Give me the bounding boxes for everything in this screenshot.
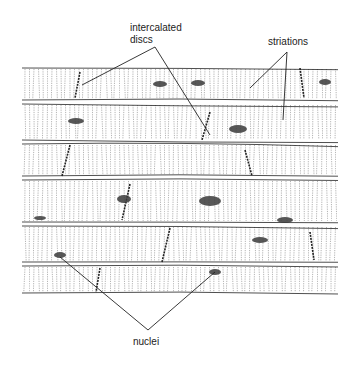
- striation: [262, 227, 263, 261]
- striation: [204, 267, 205, 292]
- striation: [232, 267, 233, 292]
- fiber-edge: [22, 99, 338, 101]
- nucleus: [199, 196, 221, 206]
- striation: [111, 105, 112, 139]
- striation: [334, 227, 335, 261]
- striation: [210, 69, 211, 99]
- nucleus: [34, 216, 46, 220]
- striation: [182, 267, 183, 292]
- striation: [100, 69, 101, 99]
- striation: [186, 227, 187, 261]
- striation: [228, 181, 229, 221]
- striation: [141, 267, 142, 292]
- leader-nuclei-2: [148, 272, 215, 330]
- striation: [268, 227, 269, 261]
- striation: [51, 69, 52, 99]
- striation: [322, 105, 323, 139]
- striation: [168, 105, 169, 139]
- striation: [141, 105, 142, 139]
- striation: [249, 227, 250, 261]
- label-intercalated-line2: discs: [130, 34, 182, 46]
- striation: [258, 105, 259, 139]
- striation: [282, 267, 283, 292]
- nucleus: [191, 80, 205, 86]
- striation: [177, 181, 178, 221]
- striation: [37, 181, 38, 221]
- striation: [146, 69, 147, 99]
- striation: [183, 145, 184, 175]
- striation: [96, 105, 97, 139]
- striation: [74, 267, 75, 292]
- striation: [327, 181, 328, 221]
- striation: [217, 105, 218, 139]
- figure: intercalated discs striations nuclei: [0, 0, 359, 367]
- striation: [264, 267, 265, 292]
- striation: [309, 105, 310, 139]
- striation: [156, 105, 157, 139]
- striation: [227, 227, 228, 261]
- nucleus: [229, 125, 247, 133]
- striation: [165, 105, 166, 139]
- striation: [235, 227, 236, 261]
- striation: [223, 267, 224, 292]
- striation: [24, 267, 25, 292]
- striation: [154, 227, 155, 261]
- striation: [336, 181, 337, 221]
- striation: [313, 145, 314, 175]
- striation: [240, 105, 241, 139]
- striation: [124, 267, 125, 292]
- striation: [240, 181, 241, 221]
- striation: [312, 181, 313, 221]
- striation: [250, 181, 251, 221]
- striation: [24, 145, 25, 175]
- striation: [145, 227, 146, 261]
- striation: [291, 267, 292, 292]
- striation: [93, 181, 94, 221]
- striation: [267, 145, 268, 175]
- striation: [42, 181, 43, 221]
- striation: [168, 267, 169, 292]
- striation: [201, 145, 202, 175]
- striation: [129, 267, 130, 292]
- striation: [164, 267, 165, 292]
- striation: [29, 145, 30, 175]
- striation: [87, 181, 88, 221]
- striation: [93, 145, 94, 175]
- striation: [285, 227, 286, 261]
- striation: [219, 145, 220, 175]
- striation: [222, 227, 223, 261]
- striation: [276, 145, 277, 175]
- striation: [150, 69, 151, 99]
- striation: [133, 105, 134, 139]
- striation: [132, 181, 133, 221]
- striation: [25, 105, 26, 139]
- striation: [83, 267, 84, 292]
- striation: [258, 69, 259, 99]
- striation: [39, 69, 40, 99]
- striation: [74, 181, 75, 221]
- intercalated-disc: [300, 68, 304, 98]
- striation: [96, 227, 97, 261]
- nucleus: [153, 81, 167, 87]
- striation: [106, 69, 107, 99]
- striation: [255, 227, 256, 261]
- striation: [73, 227, 74, 261]
- striation: [222, 105, 223, 139]
- striation: [100, 181, 101, 221]
- striation: [201, 105, 202, 139]
- striation: [259, 267, 260, 292]
- striation: [299, 227, 300, 261]
- striation: [137, 105, 138, 139]
- striation: [226, 145, 227, 175]
- striation: [195, 181, 196, 221]
- striation: [268, 69, 269, 99]
- striation: [226, 267, 227, 292]
- striation: [138, 267, 139, 292]
- striation: [183, 69, 184, 99]
- striation: [151, 267, 152, 292]
- striation: [249, 267, 250, 292]
- striation: [331, 145, 332, 175]
- striation: [178, 145, 179, 175]
- striation: [186, 105, 187, 139]
- intercalated-disc: [245, 150, 252, 176]
